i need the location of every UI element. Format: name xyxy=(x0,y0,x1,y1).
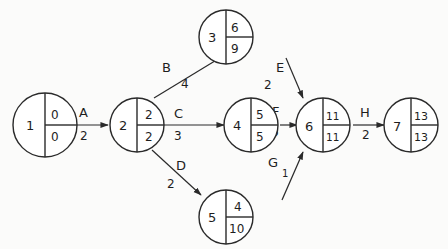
edge-e-duration: 2 xyxy=(264,78,272,92)
node-3-earliest: 6 xyxy=(231,21,239,35)
node-5-earliest: 4 xyxy=(234,200,242,214)
edge-e xyxy=(286,58,303,98)
node-5-id: 5 xyxy=(208,210,216,225)
edge-h-duration: 2 xyxy=(362,128,370,142)
node-1-latest: 0 xyxy=(51,130,59,144)
edge-g-duration: 1 xyxy=(282,168,288,179)
node-2-latest: 2 xyxy=(145,130,153,144)
edge-b-duration: 4 xyxy=(181,77,189,91)
node-1-earliest: 0 xyxy=(51,108,59,122)
node-1: 1 0 0 xyxy=(13,93,77,157)
node-7-id: 7 xyxy=(393,119,401,134)
node-1-id: 1 xyxy=(26,118,34,133)
edge-c-duration: 3 xyxy=(174,129,182,143)
node-7-latest: 13 xyxy=(414,131,428,144)
node-6-earliest: 11 xyxy=(326,110,339,122)
node-4-earliest: 5 xyxy=(256,108,264,122)
node-2-earliest: 2 xyxy=(145,108,153,122)
node-7: 7 13 13 xyxy=(384,98,438,152)
node-2: 2 2 2 xyxy=(110,98,164,152)
node-7-earliest: 13 xyxy=(414,110,428,123)
node-4: 4 5 5 xyxy=(224,98,278,152)
edge-b-activity: B xyxy=(162,60,171,75)
node-6-latest: 11 xyxy=(326,131,339,143)
node-2-id: 2 xyxy=(119,118,127,133)
network-diagram: A 2 B 4 C 3 D 2 E 2 F 6 G 1 H 2 1 0 0 2 … xyxy=(0,0,448,249)
node-4-id: 4 xyxy=(233,118,241,133)
edge-c-activity: C xyxy=(174,106,183,121)
edge-d-activity: D xyxy=(176,158,186,173)
node-3-id: 3 xyxy=(208,30,216,45)
node-6: 6 11 11 xyxy=(296,98,350,152)
node-5: 5 4 10 xyxy=(199,190,253,244)
node-6-id: 6 xyxy=(305,119,313,134)
edge-a-activity: A xyxy=(79,105,88,120)
edge-e-activity: E xyxy=(276,60,284,75)
edge-g-activity: G xyxy=(268,155,278,170)
edge-a-duration: 2 xyxy=(80,129,88,143)
edge-d-duration: 2 xyxy=(167,177,175,191)
node-5-latest: 10 xyxy=(229,222,244,236)
node-3: 3 6 9 xyxy=(199,10,253,64)
edge-h-activity: H xyxy=(360,105,370,120)
node-4-latest: 5 xyxy=(256,130,264,144)
node-3-latest: 9 xyxy=(231,42,239,56)
